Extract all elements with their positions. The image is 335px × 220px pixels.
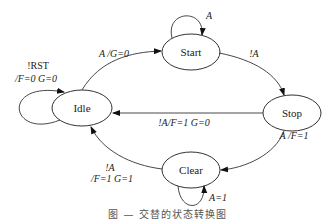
- figure-caption: 图 — 交替的状态转换图: [0, 206, 335, 220]
- state-stop-label: Stop: [282, 107, 303, 119]
- state-idle: Idle: [52, 90, 112, 126]
- edge-clear-self-label: A=1: [208, 192, 227, 203]
- state-stop: Stop: [263, 95, 321, 131]
- edge-stop-clear-label: A /F=1: [278, 130, 308, 141]
- edge-idle-self-label-2: /F=0 G=0: [14, 73, 57, 84]
- state-clear-label: Clear: [179, 164, 203, 176]
- state-diagram: Idle Start Stop Clear !RST /F=0 G=0 A /G…: [0, 0, 335, 220]
- state-start: Start: [162, 34, 220, 70]
- edge-start-stop-label: !A: [249, 48, 259, 59]
- edge-idle-start-label: A /G=0: [98, 48, 129, 59]
- edge-start-self-label: A: [205, 10, 213, 21]
- edge-clear-idle: [91, 127, 162, 169]
- edge-clear-self: [178, 186, 204, 206]
- edge-clear-idle-label-2: /F=1 G=1: [90, 173, 133, 184]
- edge-stop-clear: [221, 131, 284, 170]
- state-clear: Clear: [162, 152, 220, 188]
- state-idle-label: Idle: [73, 102, 90, 114]
- edge-stop-idle-label: !A/F=1 G=0: [158, 117, 210, 128]
- edge-idle-self-label-1: !RST: [27, 60, 49, 71]
- edge-clear-idle-label-1: !A: [105, 162, 115, 173]
- state-start-label: Start: [181, 46, 202, 58]
- edge-start-stop: [219, 53, 284, 95]
